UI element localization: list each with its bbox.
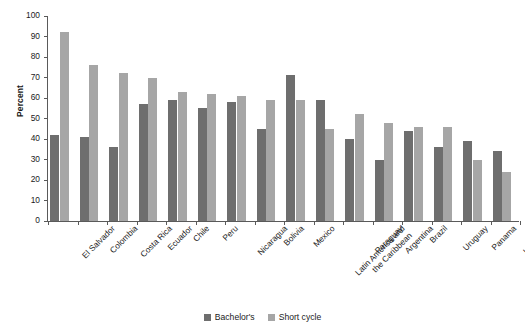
bar-bachelors xyxy=(50,135,59,221)
x-axis-category-label: Latin America andthe Caribbean xyxy=(353,224,414,285)
bar-group xyxy=(196,17,226,221)
bar-group xyxy=(373,17,403,221)
bar-short-cycle xyxy=(384,123,393,221)
x-axis-category-label-line: Peru xyxy=(221,224,240,243)
bar-bachelors xyxy=(227,102,236,221)
bar-bachelors xyxy=(316,100,325,221)
bar-group xyxy=(78,17,108,221)
bar-bachelors xyxy=(463,141,472,221)
y-axis-tick-label: 60 xyxy=(31,92,40,102)
chart-title xyxy=(0,0,525,3)
x-axis-category-label-line: Panama xyxy=(490,224,519,253)
x-axis-category-label: Uruguay xyxy=(461,224,490,253)
y-axis-tick-label: 30 xyxy=(31,154,40,164)
bar-group xyxy=(314,17,344,221)
bar-bachelors xyxy=(109,147,118,221)
bar-bachelors xyxy=(168,100,177,221)
legend-item-label: Short cycle xyxy=(279,312,322,322)
bar-group xyxy=(461,17,491,221)
bar-bachelors xyxy=(345,139,354,221)
bar-bachelors xyxy=(375,160,384,222)
legend-swatch-bachelors xyxy=(204,314,211,321)
y-axis-tick-label: 0 xyxy=(35,215,40,225)
bar-group xyxy=(402,17,432,221)
bar-short-cycle xyxy=(89,65,98,221)
bar-series-container xyxy=(48,17,519,221)
bar-bachelors xyxy=(286,75,295,221)
bar-short-cycle xyxy=(325,129,334,221)
y-axis-tick-label: 20 xyxy=(31,174,40,184)
x-axis-tick-mark xyxy=(520,221,521,225)
bar-short-cycle xyxy=(443,127,452,221)
bar-group xyxy=(225,17,255,221)
bar-group xyxy=(137,17,167,221)
bar-short-cycle xyxy=(266,100,275,221)
legend-item[interactable]: Bachelor's xyxy=(204,312,255,322)
y-axis-tick-label: 40 xyxy=(31,133,40,143)
bar-group xyxy=(284,17,314,221)
bar-bachelors xyxy=(493,151,502,221)
bar-short-cycle xyxy=(237,96,246,221)
x-axis-category-label: Honduras xyxy=(521,224,525,256)
x-axis-category-label-line: Uruguay xyxy=(461,224,490,253)
bar-group xyxy=(343,17,373,221)
bar-bachelors xyxy=(404,131,413,221)
x-axis-category-label-line: Chile xyxy=(192,224,212,244)
x-axis-category-label-line: Mexico xyxy=(312,224,337,249)
legend-item[interactable]: Short cycle xyxy=(268,312,322,322)
bar-group xyxy=(255,17,285,221)
x-axis-category-label: Mexico xyxy=(312,224,337,249)
x-axis-category-label: Panama xyxy=(490,224,519,253)
legend-item-label: Bachelor's xyxy=(215,312,255,322)
chart-legend: Bachelor'sShort cycle xyxy=(0,312,525,322)
bar-short-cycle xyxy=(60,32,69,221)
bar-short-cycle xyxy=(148,78,157,222)
bar-short-cycle xyxy=(119,73,128,221)
bar-group xyxy=(107,17,137,221)
bar-short-cycle xyxy=(296,100,305,221)
bar-group xyxy=(491,17,521,221)
bar-short-cycle xyxy=(355,114,364,221)
bar-short-cycle xyxy=(502,172,511,221)
y-axis-tick-label: 10 xyxy=(31,195,40,205)
legend-swatch-short-cycle xyxy=(268,314,275,321)
bar-short-cycle xyxy=(207,94,216,221)
bar-group xyxy=(432,17,462,221)
bar-short-cycle xyxy=(473,160,482,222)
x-axis-category-label: Chile xyxy=(192,224,212,244)
plot-area: 1009080706050403020100 xyxy=(47,17,519,222)
y-axis-tick-label: 70 xyxy=(31,72,40,82)
y-axis-tick-label: 100 xyxy=(26,10,40,20)
x-axis-category-labels: El SalvadorColombiaCosta RicaEcuadorChil… xyxy=(47,224,519,304)
bar-bachelors xyxy=(434,147,443,221)
bar-group xyxy=(48,17,78,221)
y-axis-tick-label: 50 xyxy=(31,113,40,123)
bar-bachelors xyxy=(198,108,207,221)
bar-short-cycle xyxy=(414,127,423,221)
bar-bachelors xyxy=(139,104,148,221)
x-axis-category-label: Peru xyxy=(221,224,240,243)
bar-bachelors xyxy=(80,137,89,221)
x-axis-category-label-line: Honduras xyxy=(521,224,525,256)
chart-figure: Percent 1009080706050403020100 El Salvad… xyxy=(0,0,525,332)
y-axis-tick-label: 90 xyxy=(31,31,40,41)
bar-short-cycle xyxy=(178,92,187,221)
y-axis-label: Percent xyxy=(15,71,25,131)
y-axis-tick-label: 80 xyxy=(31,51,40,61)
bar-group xyxy=(166,17,196,221)
bar-bachelors xyxy=(257,129,266,221)
